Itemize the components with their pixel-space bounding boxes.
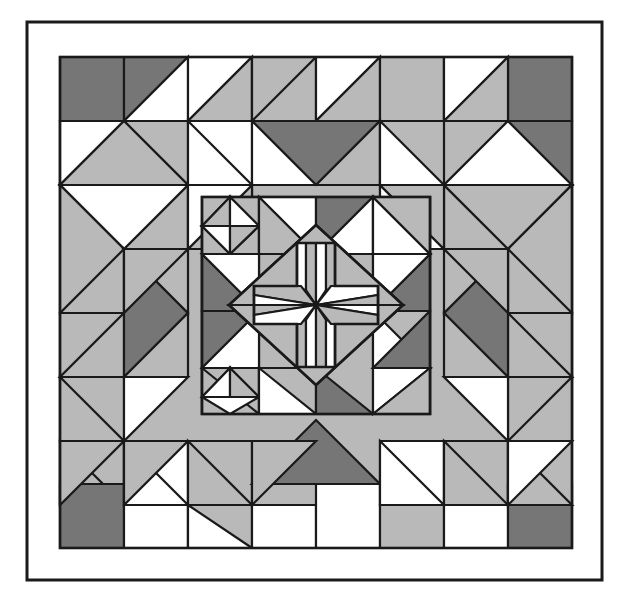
piece-bl-bottom-white [124,505,188,548]
piece-b-c4b [252,505,316,548]
quilt-illustration [0,0,628,607]
illustration-stage [0,0,628,607]
medallion-arm-bottom-s4 [326,320,335,367]
medallion-arm-top-s1 [297,243,306,290]
piece-b-c5 [316,484,380,548]
quilt-block [60,57,572,548]
piece-tl-corner-dark [60,57,124,121]
medallion-arm-bottom-s1 [297,320,306,367]
piece-top-c6-light [380,57,444,121]
medallion-arm-top-s4 [326,243,335,290]
piece-b-c6c [380,505,444,548]
piece-tr-corner-dark [508,57,572,121]
piece-br-white [444,505,508,548]
